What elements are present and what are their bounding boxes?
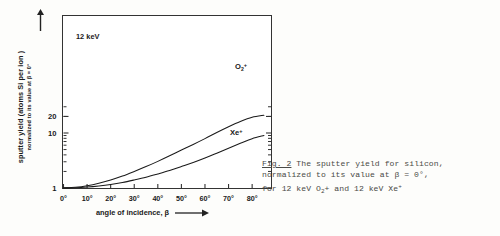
figure-caption: Fig. 2 The sputter yield for silicon, no… <box>262 158 498 197</box>
series-label-o2: O2+ <box>235 62 247 72</box>
x-tick-label: 20° <box>100 194 122 203</box>
figure-container: sputter yield (atoms Si per ion ) normal… <box>0 0 500 236</box>
x-tick-label: 30° <box>123 194 145 203</box>
caption-line-3: for 12 keV O2+ and 12 keV Xe+ <box>262 181 498 197</box>
caption-line-2: normalized to its value at β = 0°, <box>262 169 498 180</box>
tick-layer <box>64 107 272 188</box>
x-tick-label: 50° <box>170 194 192 203</box>
x-tick-label: 40° <box>147 194 169 203</box>
series-label-xe: Xe+ <box>230 128 243 137</box>
x-tick-label: 70° <box>218 194 240 203</box>
y-tick-label: 10 <box>35 129 57 138</box>
caption-figure-number: Fig. 2 <box>262 159 291 168</box>
y-tick-label: 20 <box>35 112 57 121</box>
x-tick-label: 60° <box>194 194 216 203</box>
x-axis-title-text: angle of incidence, β <box>96 208 169 217</box>
x-tick-label: 80° <box>241 194 263 203</box>
caption-line-3-prefix: for 12 keV O <box>262 184 321 193</box>
y-tick-label: 1 <box>35 184 57 193</box>
x-axis-arrow-icon <box>175 209 209 217</box>
curve-layer <box>64 115 264 188</box>
caption-line-1: Fig. 2 The sputter yield for silicon, <box>262 158 498 169</box>
x-tick-label: 0° <box>53 194 75 203</box>
caption-line-1-rest: The sputter yield for silicon, <box>291 159 443 168</box>
x-tick-label: 10° <box>76 194 98 203</box>
caption-line-3-mid: + and 12 keV Xe <box>325 184 399 193</box>
x-axis-title: angle of incidence, β <box>96 208 209 217</box>
caption-line-3-sup: + <box>398 183 402 190</box>
